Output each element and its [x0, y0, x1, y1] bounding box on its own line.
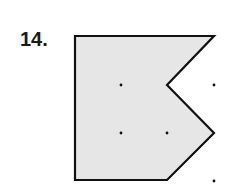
grid-dot [120, 132, 123, 135]
grid-dot [213, 84, 216, 87]
shaded-polygon [75, 36, 214, 180]
grid-dot [120, 84, 123, 87]
polygon-figure [0, 0, 229, 188]
grid-dot [166, 132, 169, 135]
grid-dot [213, 180, 216, 183]
